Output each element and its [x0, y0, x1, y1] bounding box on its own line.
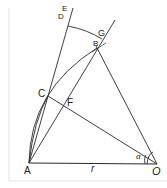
line-AE: [29, 8, 73, 163]
label-radius: r: [91, 164, 94, 174]
label-G: G: [98, 29, 105, 38]
label-O: O: [152, 166, 161, 177]
label-B: B: [93, 40, 98, 48]
label-A: A: [24, 166, 31, 176]
label-F: F: [67, 98, 73, 108]
label-angle-alpha: α: [136, 153, 141, 161]
arc-DG: [68, 26, 102, 39]
label-D: D: [58, 13, 64, 21]
diagram-frame: E D G B C F A O r α: [0, 0, 167, 188]
label-C: C: [38, 89, 45, 99]
segment-OB: [96, 46, 157, 164]
geometry-canvas: [0, 0, 167, 188]
angle-arc-alpha: [145, 155, 146, 164]
